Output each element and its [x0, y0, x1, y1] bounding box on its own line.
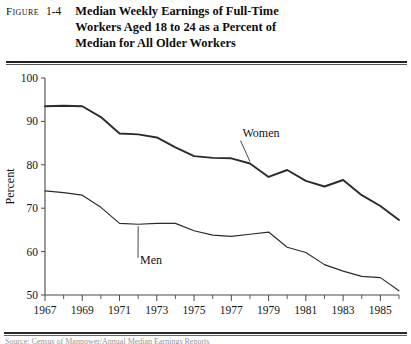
- x-axis-tick-label: 1969: [71, 304, 94, 316]
- y-axis-tick-label: 90: [27, 115, 39, 127]
- chart-series: [45, 106, 399, 291]
- x-axis-tick-label: 1979: [257, 304, 280, 316]
- y-axis-tick-label: 100: [21, 72, 39, 84]
- y-axis: 5060708090100: [21, 72, 45, 301]
- y-axis-tick-label: 80: [27, 159, 39, 171]
- series-label-women: Women: [242, 126, 279, 140]
- series-line-men: [45, 191, 399, 291]
- y-axis-tick-label: 60: [27, 246, 39, 258]
- figure-number: 1-4: [46, 4, 61, 17]
- header-divider-thick: [6, 61, 407, 63]
- x-axis-tick-label: 1971: [108, 304, 131, 316]
- figure-title: Median Weekly Earnings of Full-Time Work…: [75, 4, 278, 52]
- annotation-leader-line: [240, 141, 249, 162]
- series-label-men: Men: [140, 253, 162, 267]
- x-axis-tick-label: 1981: [294, 304, 317, 316]
- x-axis-tick-label: 1967: [34, 304, 57, 316]
- footer-divider-thick: [4, 332, 407, 334]
- y-axis-tick-label: 70: [27, 202, 39, 214]
- x-axis-tick-label: 1973: [145, 304, 168, 316]
- figure-header: Figure 1-4 Median Weekly Earnings of Ful…: [6, 4, 405, 52]
- figure-title-line-2: Workers Aged 18 to 24 as a Percent of: [75, 20, 278, 36]
- x-axis-tick-label: 1975: [183, 304, 206, 316]
- series-line-women: [45, 106, 399, 220]
- x-axis-tick-label: 1985: [369, 304, 392, 316]
- figure-container: Figure 1-4 Median Weekly Earnings of Ful…: [0, 0, 411, 344]
- figure-title-line-3: Median for All Older Workers: [75, 36, 278, 52]
- source-note: Source: Census of Manpower/Annual Median…: [5, 337, 405, 344]
- x-axis-tick-label: 1977: [220, 304, 243, 316]
- figure-title-line-1: Median Weekly Earnings of Full-Time: [75, 4, 278, 20]
- chart-plot-area: 5060708090100 19671969197119731975197719…: [0, 66, 411, 316]
- header-divider-thin: [6, 64, 407, 65]
- footer-divider-thin: [4, 335, 407, 336]
- x-axis-tick-label: 1983: [332, 304, 355, 316]
- y-axis-title: Percent: [3, 168, 17, 205]
- line-chart-svg: 5060708090100 19671969197119731975197719…: [0, 66, 411, 316]
- x-axis: 1967196919711973197519771979198119831985: [34, 295, 400, 316]
- figure-label: Figure: [6, 4, 39, 17]
- y-axis-tick-label: 50: [27, 289, 39, 301]
- chart-annotations: WomenMen: [138, 126, 280, 267]
